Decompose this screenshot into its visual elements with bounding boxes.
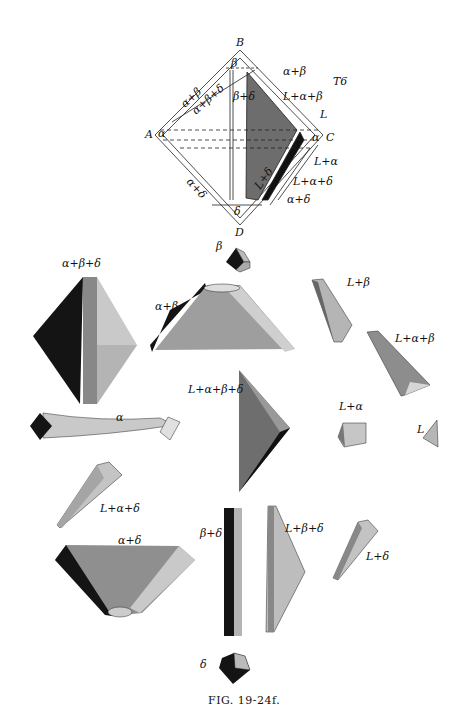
label-alpha-beta-delta: α+β+δ <box>62 257 101 270</box>
region-label-alpha-a: α <box>158 127 166 140</box>
solid-alpha-beta <box>150 283 295 352</box>
phase-diagram-figure: B A C D T6 β α+β L+α+β L α+β α+β+δ β+δ α… <box>0 0 463 726</box>
solid-beta-delta <box>224 508 242 636</box>
label-alpha-beta: α+β <box>155 300 178 313</box>
temperature-label: T6 <box>333 75 347 88</box>
region-label-l-alpha: L+α <box>313 155 339 168</box>
solid-alpha <box>30 413 180 440</box>
label-beta-delta: β+δ <box>199 527 223 540</box>
region-label-alpha-delta-right: α+δ <box>287 193 311 206</box>
label-l-alpha-beta: L+α+β <box>394 332 435 345</box>
region-label-l-alpha-delta: L+α+δ <box>292 175 333 188</box>
region-label-delta: δ <box>234 205 241 218</box>
label-l-delta: L+δ <box>365 550 390 563</box>
label-alpha: α <box>116 411 124 424</box>
solid-l-beta <box>312 279 352 342</box>
solid-alpha-beta-delta <box>33 277 137 404</box>
solid-alpha-delta <box>55 545 195 617</box>
solid-l-alpha-beta-delta <box>239 370 290 492</box>
region-label-beta-delta: β+δ <box>232 90 256 103</box>
solid-l <box>423 420 438 447</box>
label-alpha-delta: α+δ <box>118 534 142 547</box>
label-l-alpha-beta-delta: L+α+β+δ <box>187 383 244 396</box>
solid-beta <box>226 248 250 272</box>
figure-caption: FIG. 19-24f. <box>208 694 280 707</box>
solid-delta <box>219 653 250 684</box>
label-l-beta: L+β <box>346 276 370 289</box>
region-label-alpha-delta-left: α+δ <box>184 175 209 201</box>
vertex-a-label: A <box>144 128 153 141</box>
region-label-beta: β <box>230 57 237 70</box>
vertex-b-label: B <box>235 36 244 49</box>
region-label-alpha-beta: α+β <box>283 65 306 78</box>
label-l-alpha: L+α <box>338 400 364 413</box>
label-l: L <box>416 423 424 436</box>
label-l-beta-delta: L+β+δ <box>284 522 324 535</box>
region-label-alpha-c: α <box>312 131 320 144</box>
solid-l-alpha-delta <box>57 462 122 528</box>
solid-l-alpha <box>338 423 366 447</box>
region-label-l: L <box>319 108 327 121</box>
region-label-l-alpha-beta: L+α+β <box>282 90 323 103</box>
vertex-d-label: D <box>234 226 244 239</box>
label-beta: β <box>215 240 222 253</box>
label-delta: δ <box>200 658 207 671</box>
label-l-alpha-delta: L+α+δ <box>99 502 140 515</box>
vertex-c-label: C <box>326 131 335 144</box>
